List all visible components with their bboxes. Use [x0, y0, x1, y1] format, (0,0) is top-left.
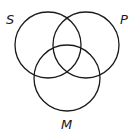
label-p: P	[120, 12, 128, 27]
venn-diagram: S P M	[0, 0, 134, 133]
label-s: S	[6, 12, 14, 27]
label-m: M	[61, 117, 72, 132]
